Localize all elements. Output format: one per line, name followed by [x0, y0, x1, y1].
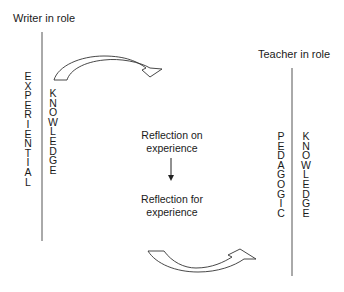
knowledge-left-vertical-text: KNOWLEDGE	[47, 89, 59, 175]
writer-in-role-label: Writer in role	[13, 12, 75, 24]
pedagogic-vertical-text: PEDAGOGIC	[275, 132, 287, 218]
reflection-for-line1: Reflection for	[112, 193, 232, 206]
bottom-curved-arrow-icon	[148, 249, 256, 272]
teacher-in-role-label: Teacher in role	[258, 48, 330, 60]
top-curved-arrow-icon	[54, 56, 162, 80]
vertical-letter: E	[49, 166, 56, 176]
knowledge-right-vertical-text: KNOWLEDGE	[300, 132, 312, 218]
reflection-on-line1: Reflection on	[112, 129, 232, 142]
reflection-on-experience-label: Reflection on experience	[112, 129, 232, 155]
reflection-on-line2: experience	[112, 142, 232, 155]
vertical-letter: C	[277, 209, 285, 219]
experiential-vertical-text: EXPERIENTIAL	[22, 72, 34, 187]
down-arrow-icon	[168, 158, 174, 181]
vertical-letter: L	[25, 178, 31, 188]
reflection-for-line2: experience	[112, 206, 232, 219]
vertical-letter: E	[302, 209, 309, 219]
reflection-for-experience-label: Reflection for experience	[112, 193, 232, 219]
